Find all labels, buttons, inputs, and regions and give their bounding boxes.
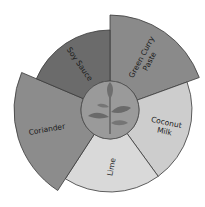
center-hub bbox=[81, 81, 139, 139]
ingredient-wheel: Green CurryPasteCoconutMilkLimeCoriander… bbox=[0, 0, 205, 207]
wheel-svg: Green CurryPasteCoconutMilkLimeCoriander… bbox=[0, 0, 205, 207]
